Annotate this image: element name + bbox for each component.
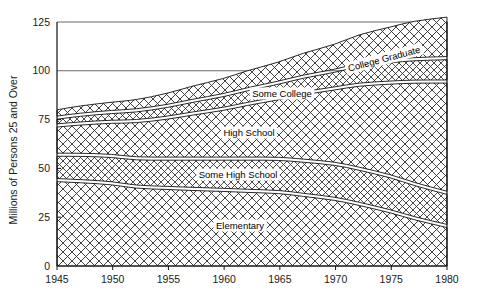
- series-label-group: Elementary: [213, 220, 266, 232]
- series-label-some-high-school: Some High School: [199, 169, 278, 180]
- series-label-elementary: Elementary: [216, 220, 264, 231]
- stacked-area-chart: 0255075100125 19451950195519601965197019…: [0, 0, 480, 297]
- y-axis-title: Millions of Persons 25 and Over: [7, 75, 19, 224]
- y-tick-label-50: 50: [38, 162, 50, 174]
- x-tick-label-1975: 1975: [380, 273, 404, 285]
- series-label-group: High School: [221, 127, 277, 139]
- x-tick-label-1945: 1945: [45, 273, 69, 285]
- x-axis-ticks: 19451950195519601965197019751980: [45, 266, 459, 285]
- x-tick-label-1965: 1965: [268, 273, 292, 285]
- x-tick-label-1980: 1980: [435, 273, 459, 285]
- series-label-high-school: High School: [223, 127, 274, 138]
- x-tick-label-1970: 1970: [324, 273, 348, 285]
- x-tick-label-1950: 1950: [101, 273, 125, 285]
- series-label-group: Some College: [250, 88, 315, 100]
- x-tick-label-1960: 1960: [212, 273, 236, 285]
- chart-container: 0255075100125 19451950195519601965197019…: [0, 0, 480, 297]
- y-tick-label-75: 75: [38, 113, 50, 125]
- x-tick-label-1955: 1955: [157, 273, 181, 285]
- y-tick-label-25: 25: [38, 211, 50, 223]
- y-tick-label-0: 0: [44, 260, 50, 272]
- y-tick-label-125: 125: [32, 16, 50, 28]
- series-label-some-college: Some College: [252, 88, 312, 99]
- series-label-group: Some High School: [196, 169, 280, 181]
- y-tick-label-100: 100: [32, 64, 50, 76]
